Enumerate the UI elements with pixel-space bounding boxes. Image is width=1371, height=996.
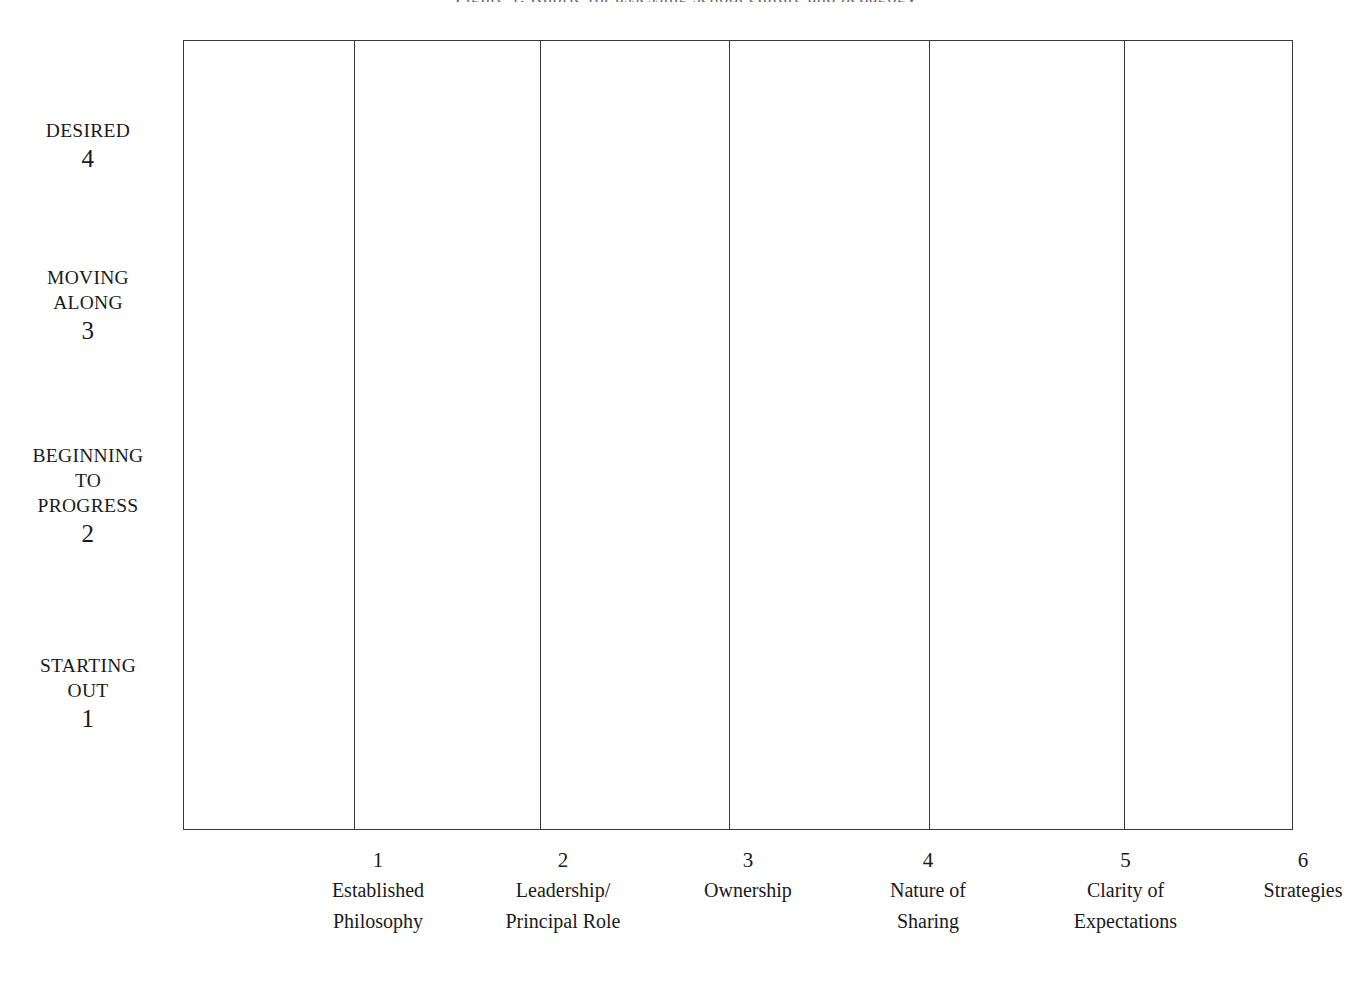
y-axis-level-beginning-to-progress: BEGINNING TO PROGRESS 2 [0,443,176,549]
x-axis-category-4-index: 4 [843,845,1013,875]
y-axis-level-beginning-to-progress-name: BEGINNING TO PROGRESS [0,443,176,518]
y-axis-level-desired-value: 4 [0,143,176,174]
x-axis-category-ownership: 3 Ownership [658,845,838,906]
y-axis-level-starting-out-value: 1 [0,703,176,734]
grid-column-ownership[interactable] [540,41,729,829]
y-axis-level-desired: DESIRED 4 [0,118,176,174]
x-axis-category-leadership-principal-role: 2 Leadership/ Principal Role [463,845,663,937]
grid-column-leadership-principal-role[interactable] [354,41,540,829]
x-axis-category-established-philosophy: 1 Established Philosophy [293,845,463,937]
x-axis-category-strategies: 6 Strategies [1223,845,1371,906]
y-axis-level-starting-out: STARTING OUT 1 [0,653,176,734]
y-axis-level-desired-name: DESIRED [0,118,176,143]
column-divider-2 [540,41,541,829]
y-axis-level-moving-along-name: MOVING ALONG [0,265,176,315]
x-axis-category-3-index: 3 [658,845,838,875]
x-axis-category-nature-of-sharing: 4 Nature of Sharing [843,845,1013,937]
x-axis-category-4-name: Nature of Sharing [843,875,1013,937]
clipped-title-fragment: Figure 1. Rubric for assessing school cu… [0,0,1371,2]
y-axis-level-moving-along: MOVING ALONG 3 [0,265,176,346]
x-axis-category-1-name: Established Philosophy [293,875,463,937]
x-axis-category-6-index: 6 [1223,845,1371,875]
x-axis-category-5-name: Clarity of Expectations [1028,875,1223,937]
grid-column-clarity-of-expectations[interactable] [929,41,1124,829]
y-axis-label-group: DESIRED 4 MOVING ALONG 3 BEGINNING TO PR… [0,40,176,830]
x-axis-category-clarity-of-expectations: 5 Clarity of Expectations [1028,845,1223,937]
column-divider-5 [1124,41,1125,829]
x-axis-category-3-name: Ownership [658,875,838,906]
grid-column-established-philosophy[interactable] [184,41,354,829]
x-axis-label-group: 1 Established Philosophy 2 Leadership/ P… [183,845,1371,985]
grid-column-nature-of-sharing[interactable] [729,41,929,829]
x-axis-category-1-index: 1 [293,845,463,875]
y-axis-level-starting-out-name: STARTING OUT [0,653,176,703]
x-axis-category-5-index: 5 [1028,845,1223,875]
x-axis-category-2-name: Leadership/ Principal Role [463,875,663,937]
column-divider-3 [729,41,730,829]
rubric-grid [183,40,1293,830]
x-axis-category-2-index: 2 [463,845,663,875]
x-axis-category-6-name: Strategies [1223,875,1371,906]
column-divider-4 [929,41,930,829]
y-axis-level-moving-along-value: 3 [0,315,176,346]
column-divider-1 [354,41,355,829]
y-axis-level-beginning-to-progress-value: 2 [0,518,176,549]
grid-column-strategies[interactable] [1124,41,1294,829]
